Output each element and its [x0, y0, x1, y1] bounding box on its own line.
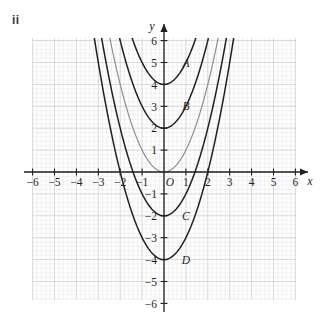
- x-tick-label: −5: [48, 176, 60, 188]
- y-tick-label: 2: [151, 122, 157, 134]
- y-tick-label: 4: [151, 79, 157, 91]
- curve-label-b: B: [182, 100, 189, 112]
- y-tick-label: −3: [145, 232, 157, 244]
- x-tick-label: −1: [136, 176, 148, 188]
- y-tick-label: −1: [145, 188, 157, 200]
- x-tick-label: 2: [205, 176, 211, 188]
- coordinate-plane-svg: −6−5−4−3−2−1123456654321−1−2−3−4−5−6 x y…: [0, 0, 325, 317]
- curve-label-a: A: [181, 57, 190, 69]
- y-tick-label: 5: [151, 57, 157, 69]
- x-tick-label: 5: [271, 176, 277, 188]
- origin-label: O: [166, 176, 175, 188]
- curve-label-d: D: [181, 254, 191, 266]
- y-axis-arrow: [160, 24, 167, 32]
- y-tick-label: 1: [151, 144, 157, 156]
- y-axis-label: y: [148, 19, 155, 33]
- x-axis-label: x: [306, 174, 313, 188]
- curve-label-c: C: [182, 210, 190, 222]
- x-tick-label: 1: [183, 176, 189, 188]
- y-tick-label: −4: [145, 254, 157, 266]
- y-tick-label: 3: [151, 101, 157, 113]
- x-tick-label: 4: [249, 176, 255, 188]
- y-tick-label: −5: [145, 276, 157, 288]
- y-tick-label: 6: [151, 35, 157, 47]
- x-tick-label: −6: [26, 176, 38, 188]
- x-tick-label: −2: [114, 176, 126, 188]
- parabola-family-graph: −6−5−4−3−2−1123456654321−1−2−3−4−5−6 x y…: [0, 0, 325, 317]
- x-tick-label: 6: [293, 176, 299, 188]
- x-tick-label: 3: [227, 176, 233, 188]
- x-tick-label: −4: [70, 176, 82, 188]
- y-tick-label: −2: [145, 210, 157, 222]
- y-tick-label: −6: [145, 298, 157, 310]
- x-tick-label: −3: [92, 176, 104, 188]
